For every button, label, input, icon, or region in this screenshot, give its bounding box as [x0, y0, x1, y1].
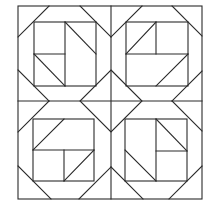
inner-division-line [125, 150, 156, 181]
corner-cut-line [169, 166, 202, 199]
inner-division-line [156, 119, 187, 151]
block-bottom-left [18, 101, 111, 199]
quilt-pattern-diagram [0, 0, 216, 209]
inner-division-line [126, 22, 156, 54]
corner-cut-line [172, 6, 202, 36]
inner-division-line [65, 22, 96, 54]
block-top-left [18, 6, 111, 101]
inner-division-line [156, 54, 188, 86]
quilt-blocks [18, 6, 202, 199]
corner-cut-line [79, 167, 111, 199]
inner-division-line [64, 150, 94, 181]
corner-cut-line [18, 166, 51, 199]
center-cross-lines [18, 6, 202, 199]
inner-division-line [34, 54, 65, 86]
block-top-right [111, 6, 202, 101]
outer-border [18, 6, 202, 199]
corner-cut-line [111, 167, 143, 199]
block-bottom-right [111, 101, 202, 199]
inner-division-line [33, 119, 64, 150]
